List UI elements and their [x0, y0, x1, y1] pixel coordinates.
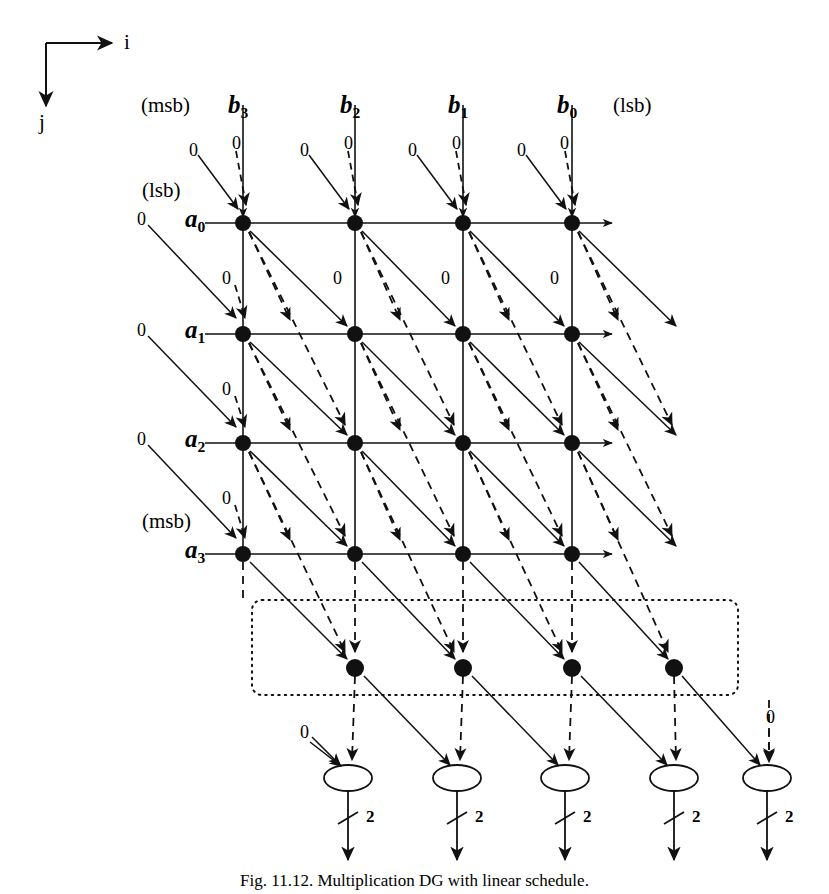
zero-label: 0	[441, 269, 450, 287]
zero-label: 0	[222, 489, 231, 507]
zero-label: 0	[766, 708, 775, 726]
zero-label: 0	[560, 134, 569, 152]
column-label-b3-sub: 3	[241, 104, 249, 121]
multiplication-dg-figure: i j (msb) (lsb) b3 b2 b1 b0 (lsb) (msb) …	[0, 0, 829, 894]
column-label-b1: b1	[448, 92, 468, 120]
row-label-a0: a0	[185, 206, 205, 234]
column-label-b1-base: b	[448, 91, 461, 118]
column-label-b3-base: b	[228, 91, 241, 118]
adder-output-buses	[338, 791, 777, 860]
row-label-a0-base: a	[185, 205, 198, 232]
top-input-arrows-solid	[198, 155, 566, 209]
zero-label: 0	[300, 141, 309, 159]
axis-indicator	[46, 43, 112, 106]
column-label-b3: b3	[228, 92, 248, 120]
column-label-b0: b0	[557, 92, 577, 120]
bus-width-label: 2	[475, 808, 484, 825]
row-label-a3-base: a	[185, 536, 198, 563]
axis-label-i: i	[124, 32, 130, 53]
row-label-a2-base: a	[185, 425, 198, 452]
zero-label: 0	[344, 134, 353, 152]
zero-label: 0	[137, 430, 146, 448]
output-to-adder-links	[312, 676, 769, 765]
bus-width-label: 2	[785, 808, 794, 825]
row-label-a2-sub: 2	[198, 438, 206, 455]
column-label-b2-base: b	[340, 91, 353, 118]
zero-label: 0	[408, 141, 417, 159]
row-label-a3: a3	[185, 537, 205, 565]
lsb-marker-b: (lsb)	[613, 95, 652, 116]
column-label-b2-sub: 2	[353, 104, 361, 121]
zero-label: 0	[222, 380, 231, 398]
zero-label: 0	[517, 141, 526, 159]
bus-width-label: 2	[583, 808, 592, 825]
zero-label: 0	[333, 269, 342, 287]
lsb-marker-a: (lsb)	[142, 180, 181, 201]
column-label-b0-base: b	[557, 91, 570, 118]
adder-ellipses	[324, 765, 791, 791]
row-label-a1-sub: 1	[198, 329, 206, 346]
axis-label-j: j	[39, 112, 45, 133]
row-label-a1-base: a	[185, 316, 198, 343]
zero-label: 0	[222, 269, 231, 287]
row-label-a2: a2	[185, 426, 205, 454]
row-label-a0-sub: 0	[198, 218, 206, 235]
zero-label: 0	[137, 321, 146, 339]
zero-label: 0	[137, 210, 146, 228]
msb-marker-a: (msb)	[142, 511, 191, 532]
bus-width-label: 2	[366, 808, 375, 825]
msb-marker-b: (msb)	[141, 95, 190, 116]
dependence-graph-canvas	[0, 0, 829, 894]
column-label-b1-sub: 1	[461, 104, 469, 121]
column-label-b2: b2	[340, 92, 360, 120]
figure-caption: Fig. 11.12. Multiplication DG with linea…	[0, 871, 829, 891]
column-label-b0-sub: 0	[570, 104, 578, 121]
zero-label: 0	[300, 723, 309, 741]
zero-label: 0	[452, 134, 461, 152]
bus-width-label: 2	[692, 808, 701, 825]
zero-label: 0	[550, 269, 559, 287]
zero-label: 0	[232, 134, 241, 152]
adder-zero-input	[310, 730, 769, 766]
output-row-nodes	[346, 659, 683, 677]
zero-label: 0	[189, 141, 198, 159]
row-label-a3-sub: 3	[198, 549, 206, 566]
column-lines	[243, 105, 572, 554]
row-label-a1: a1	[185, 317, 205, 345]
